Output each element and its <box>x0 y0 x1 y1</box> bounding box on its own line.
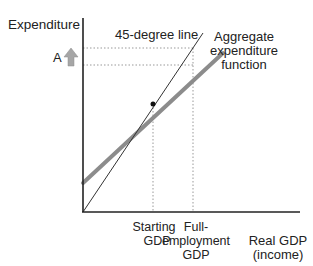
equilibrium-point <box>151 102 156 107</box>
ae-label-line1: Aggregate <box>209 30 279 44</box>
x-axis-label-line1: Real GDP <box>246 234 310 248</box>
45-degree-line-label: 45-degree line <box>115 28 198 42</box>
ae-label-line3: function <box>209 58 279 72</box>
full-emp-line1: Full- <box>158 220 234 234</box>
upward-shift-arrow-icon <box>64 48 78 66</box>
ae-function-label: Aggregate expenditure function <box>209 30 279 72</box>
45-degree-line <box>83 33 203 212</box>
full-emp-line3: GDP <box>158 248 234 262</box>
full-emp-line2: employment <box>158 234 234 248</box>
x-axis-label: Real GDP (income) <box>246 234 310 262</box>
y-axis-label: Expenditure <box>8 18 80 32</box>
ae-label-line2: expenditure <box>209 44 279 58</box>
shift-label-a: A <box>53 51 62 65</box>
x-axis-label-line2: (income) <box>246 248 310 262</box>
full-employment-gdp-label: Full- employment GDP <box>158 220 234 262</box>
